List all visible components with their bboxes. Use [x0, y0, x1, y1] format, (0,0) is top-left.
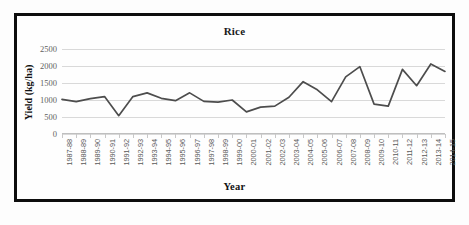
x-axis-tick-mark [133, 134, 134, 138]
plot-area: 05001000150020002500 1987-881988-891989-… [62, 49, 445, 134]
x-axis-title: Year [17, 181, 452, 192]
x-axis-tick-label: 2004-05 [306, 139, 315, 165]
x-axis-tick-mark [289, 134, 290, 138]
x-axis-tick-label: 1996-97 [193, 139, 202, 165]
x-axis-tick-mark [332, 134, 333, 138]
y-axis-title-label: Yield (kg/ha) [24, 64, 35, 119]
x-axis-tick-mark [232, 134, 233, 138]
x-axis-tick-mark [119, 134, 120, 138]
x-axis-tick-mark [90, 134, 91, 138]
x-axis-tick-label: 2010-11 [391, 139, 400, 165]
y-axis-tick-label: 1500 [40, 78, 57, 88]
x-axis-tick-label: 1992-93 [136, 139, 145, 165]
x-axis-tick-label: 1990-91 [108, 139, 117, 165]
y-axis-tick-label: 1000 [40, 95, 57, 105]
data-series-rice [62, 49, 445, 134]
y-axis-tick-label: 0 [53, 129, 57, 139]
chart-title: Rice [17, 25, 452, 37]
y-axis-tick-label: 500 [44, 112, 57, 122]
x-axis-tick-mark [175, 134, 176, 138]
x-axis-tick-label: 1993-94 [150, 139, 159, 165]
x-axis-tick-label: 2009-10 [377, 139, 386, 165]
x-axis-tick-mark [360, 134, 361, 138]
x-axis-tick-label: 2011-12 [405, 139, 414, 165]
x-axis-tick-mark [275, 134, 276, 138]
x-axis-tick-mark [417, 134, 418, 138]
x-axis-tick-label: 1998-99 [221, 139, 230, 165]
x-axis-tick-label: 1987-88 [65, 139, 74, 165]
x-axis-tick-label: 1995-96 [178, 139, 187, 165]
x-axis-tick-mark [445, 134, 446, 138]
x-axis-tick-label: 1991-92 [122, 139, 131, 165]
x-axis-tick-label: 1988-89 [79, 139, 88, 165]
x-axis-tick-mark [218, 134, 219, 138]
x-axis-tick-label: 2001-02 [264, 139, 273, 165]
x-axis-tick-mark [431, 134, 432, 138]
x-axis-tick-mark [346, 134, 347, 138]
x-axis-tick-label: 1999-00 [235, 139, 244, 165]
x-axis-tick-mark [62, 134, 63, 138]
x-axis-tick-label: 2006-07 [335, 139, 344, 165]
x-axis-tick-label: 1994-95 [164, 139, 173, 165]
x-axis-tick-mark [204, 134, 205, 138]
x-axis-tick-mark [161, 134, 162, 138]
x-axis-tick-label: 2007-08 [349, 139, 358, 165]
x-axis-tick-label: 2005-06 [320, 139, 329, 165]
x-axis-tick-label: 2013-14 [434, 139, 443, 165]
x-axis-tick-label: 2012-13 [420, 139, 429, 165]
y-axis-tick-label: 2000 [40, 61, 57, 71]
x-axis-tick-label: 1989-90 [93, 139, 102, 165]
x-axis-tick-label: 2003-04 [292, 139, 301, 165]
x-axis-tick-label: 2008-09 [363, 139, 372, 165]
x-axis-tick-label: 2002-03 [278, 139, 287, 165]
x-axis-tick-mark [374, 134, 375, 138]
x-axis-tick-mark [388, 134, 389, 138]
x-axis-tick-mark [190, 134, 191, 138]
x-axis-tick-mark [261, 134, 262, 138]
y-axis-title: Yield (kg/ha) [22, 51, 36, 133]
x-axis-tick-mark [402, 134, 403, 138]
y-axis-tick-label: 2500 [40, 44, 57, 54]
x-axis-tick-mark [246, 134, 247, 138]
x-axis-tick-label: 2000-01 [249, 139, 258, 165]
series-polyline [62, 64, 445, 116]
x-axis-tick-mark [76, 134, 77, 138]
x-axis-tick-mark [147, 134, 148, 138]
figure-container: Rice Yield (kg/ha) 05001000150020002500 … [0, 0, 469, 225]
chart-plot-background: Rice Yield (kg/ha) 05001000150020002500 … [17, 16, 452, 199]
x-axis-tick-label: 2014-15 [448, 139, 457, 165]
x-axis-tick-mark [303, 134, 304, 138]
x-axis-tick-mark [317, 134, 318, 138]
x-axis-tick-label: 1997-98 [207, 139, 216, 165]
chart-frame: Rice Yield (kg/ha) 05001000150020002500 … [14, 13, 455, 202]
x-axis-tick-mark [105, 134, 106, 138]
